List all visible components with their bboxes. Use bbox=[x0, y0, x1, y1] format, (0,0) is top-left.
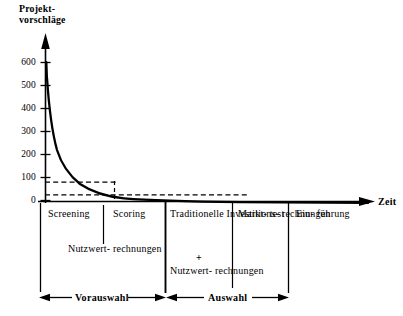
phase-label-einfuehrung: Ein- führung bbox=[296, 208, 350, 220]
bracket-label-auswahl: Auswahl bbox=[208, 292, 247, 303]
y-axis-title-line2: vorschläge bbox=[19, 14, 66, 25]
y-tick-0: 0 bbox=[10, 195, 36, 205]
reference-lines bbox=[45, 182, 250, 195]
decay-curve bbox=[47, 78, 368, 203]
y-tick-500: 500 bbox=[10, 80, 36, 90]
decay-curve-head bbox=[46, 62, 47, 78]
y-tick-100: 100 bbox=[10, 172, 36, 182]
y-tick-200: 200 bbox=[10, 149, 36, 159]
y-tick-400: 400 bbox=[10, 103, 36, 113]
vorauswahl-method-label: Nutzwert- rechnungen bbox=[68, 243, 162, 255]
diagram-root: Projekt- vorschläge Zeit 600 500 400 300… bbox=[0, 0, 403, 316]
phase-label-scoring: Scoring bbox=[113, 208, 146, 220]
auswahl-plus-sign: + bbox=[196, 252, 202, 263]
auswahl-method-label: Nutzwert- rechnungen bbox=[170, 265, 264, 277]
y-axis-title-line1: Projekt- bbox=[19, 3, 55, 14]
phase-label-markttest: Markt- test bbox=[238, 208, 284, 220]
bracket-label-vorauswahl: Vorauswahl bbox=[75, 292, 129, 303]
y-tick-600: 600 bbox=[10, 57, 36, 67]
x-axis-title: Zeit bbox=[378, 196, 396, 207]
phase-label-screening: Screening bbox=[48, 208, 90, 220]
y-tick-300: 300 bbox=[10, 126, 36, 136]
